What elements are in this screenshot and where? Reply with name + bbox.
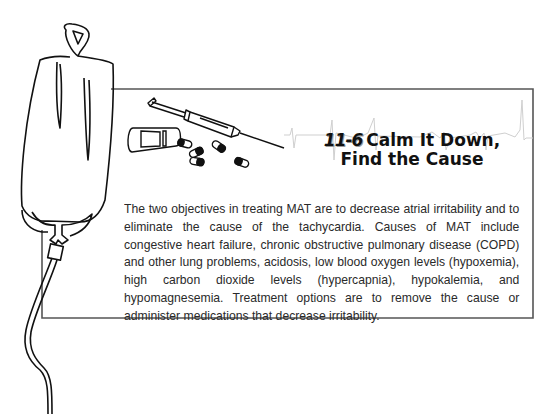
sidebar-title: 11-6Calm It Down, Find the Cause <box>292 131 532 169</box>
title-text-1: Calm It Down, <box>366 130 500 150</box>
sidebar-number: 11-6 <box>324 130 363 150</box>
title-line-1: 11-6Calm It Down, <box>292 131 532 150</box>
sidebar-body-text: The two objectives in treating MAT are t… <box>124 200 519 325</box>
title-line-2: Find the Cause <box>292 150 532 169</box>
iv-bag-icon <box>22 24 114 414</box>
